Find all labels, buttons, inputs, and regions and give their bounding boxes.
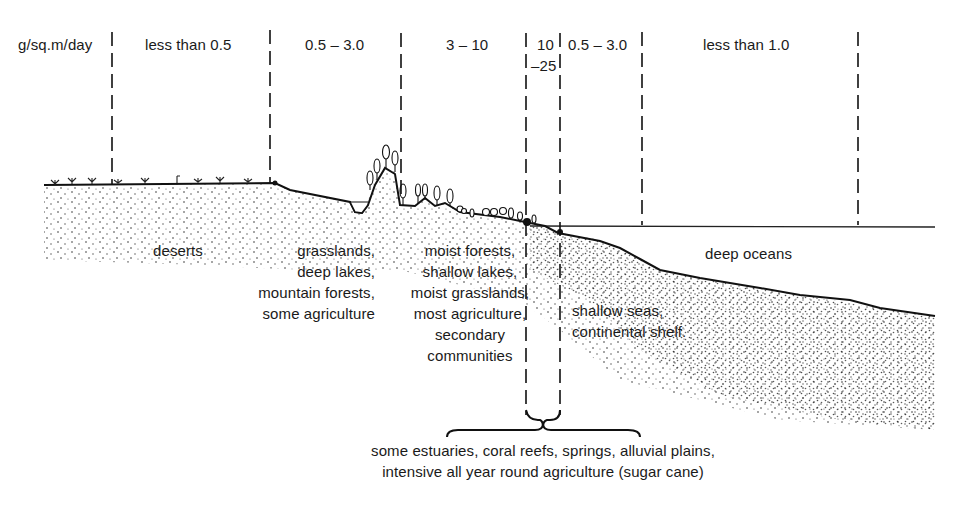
sea-surface-line [530,226,935,227]
shallow-seas-line: shallow seas, [572,300,686,321]
communities-line: communities [395,345,545,366]
unit-label: g/sq.m/day [18,34,92,55]
deep-lakes-line: deep lakes, [228,261,375,282]
brace [447,410,640,437]
high-productivity-labels: some estuaries, coral reefs, springs, al… [300,440,786,482]
zone-moist-value: 3 – 10 [446,34,488,55]
intensive-agriculture-line: intensive all year round agriculture (su… [300,461,786,482]
deep-oceans-label: deep oceans [705,243,792,264]
shallow-seas-labels: shallow seas, continental shelf. [572,300,686,342]
zone-grassland-value: 0.5 – 3.0 [305,34,364,55]
zone-estuary-value-2: –25 [531,55,556,76]
moist-labels: moist forests, shallow lakes, moist gras… [395,240,545,366]
zone-estuary-value: 10 [537,34,554,55]
some-agriculture-line: some agriculture [228,303,375,324]
moist-grasslands-line: moist grasslands, [395,282,545,303]
zone-shelf-value: 0.5 – 3.0 [568,34,627,55]
grasslands-line: grasslands, [228,240,375,261]
continental-shelf-line: continental shelf. [572,321,686,342]
zone-desert-value: less than 0.5 [145,34,231,55]
secondary-line: secondary [395,324,545,345]
estuaries-line: some estuaries, coral reefs, springs, al… [300,440,786,461]
grasslands-labels: grasslands, deep lakes, mountain forests… [228,240,375,324]
zone-ocean-value: less than 1.0 [703,34,789,55]
shallow-lakes-line: shallow lakes, [395,261,545,282]
moist-forests-line: moist forests, [395,240,545,261]
most-agriculture-line: most agriculture, [395,303,545,324]
mountain-forests-line: mountain forests, [228,282,375,303]
deserts-label: deserts [153,240,203,261]
